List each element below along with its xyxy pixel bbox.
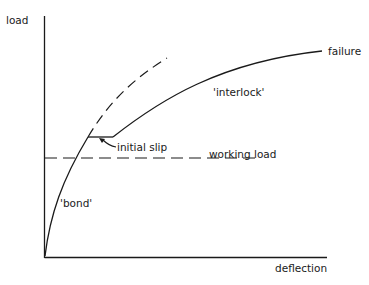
failure-label: failure (328, 45, 361, 57)
bond-continuation-dashed (88, 58, 167, 137)
interlock-label: 'interlock' (213, 86, 264, 98)
initial-slip-leader (103, 140, 116, 147)
initial-slip-label: initial slip (117, 141, 168, 153)
bond-label: 'bond' (60, 197, 92, 209)
y-axis-label: load (6, 14, 28, 26)
diagram-canvas: load deflection failure 'interlock' init… (0, 0, 369, 285)
x-axis-label: deflection (275, 262, 327, 274)
working-load-label: working load (209, 148, 276, 160)
load-deflection-diagram: load deflection failure 'interlock' init… (0, 0, 369, 285)
